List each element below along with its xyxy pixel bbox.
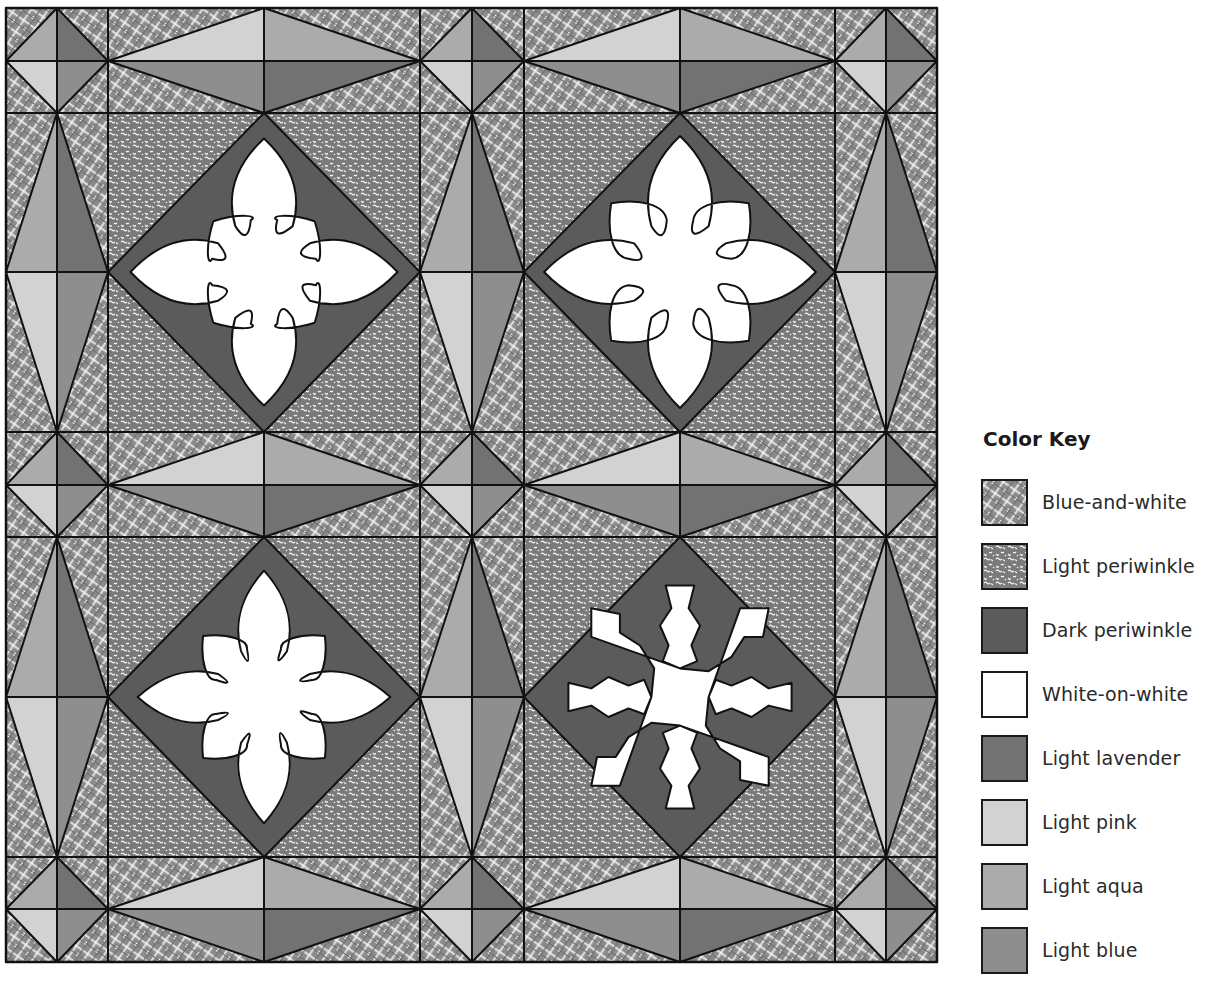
swatch-light-blue [981,927,1028,974]
legend-label: Blue-and-white [1042,491,1187,513]
legend-item-blue-and-white: Blue-and-white [981,470,1221,534]
swatch-light-lavender [981,735,1028,782]
quilt-diagram [0,0,945,970]
legend-label: Light blue [1042,939,1138,961]
color-key-legend: Color Key Blue-and-white Light periwinkl… [981,424,1221,982]
legend-item-light-aqua: Light aqua [981,854,1221,918]
legend-item-dark-periwinkle: Dark periwinkle [981,598,1221,662]
legend-item-light-pink: Light pink [981,790,1221,854]
legend-list: Blue-and-white Light periwinkle Dark per… [981,470,1221,982]
legend-label: Light lavender [1042,747,1180,769]
legend-item-white-on-white: White-on-white [981,662,1221,726]
swatch-blue-and-white [981,479,1028,526]
legend-label: Dark periwinkle [1042,619,1192,641]
swatch-white-on-white [981,671,1028,718]
snowflake-block-4-snowflake-appliqué [568,585,791,808]
swatch-light-aqua [981,863,1028,910]
legend-item-light-periwinkle: Light periwinkle [981,534,1221,598]
legend-label: Light periwinkle [1042,555,1195,577]
quilt-layer [6,8,937,962]
legend-label: Light pink [1042,811,1137,833]
legend-title: Color Key [983,424,1221,454]
swatch-light-pink [981,799,1028,846]
legend-label: White-on-white [1042,683,1188,705]
swatch-light-periwinkle [981,543,1028,590]
legend-label: Light aqua [1042,875,1144,897]
legend-item-light-lavender: Light lavender [981,726,1221,790]
swatch-dark-periwinkle [981,607,1028,654]
legend-item-light-blue: Light blue [981,918,1221,982]
